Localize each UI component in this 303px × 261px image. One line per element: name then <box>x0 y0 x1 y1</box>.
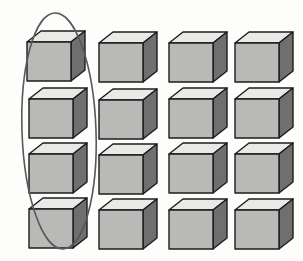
cube-r3-c1 <box>29 143 87 193</box>
cube-r2-c1 <box>29 88 87 138</box>
cube-front-face <box>169 99 213 138</box>
cube-r1-c1 <box>27 31 85 81</box>
cube-array-figure <box>0 0 303 261</box>
cube-front-face <box>29 209 73 248</box>
cube-grid <box>0 0 303 261</box>
cube-front-face <box>99 100 143 139</box>
cube-r2-c3 <box>169 88 227 138</box>
cube-r3-c3 <box>169 143 227 193</box>
cube-front-face <box>99 155 143 194</box>
cube-front-face <box>235 43 279 82</box>
cube-front-face <box>29 154 73 193</box>
cube-front-face <box>99 210 143 249</box>
cube-r4-c1 <box>29 198 87 248</box>
cube-r3-c4 <box>235 143 293 193</box>
cube-r1-c3 <box>169 32 227 82</box>
cube-front-face <box>235 210 279 249</box>
cube-r4-c4 <box>235 199 293 249</box>
cube-front-face <box>99 43 143 82</box>
cube-r3-c2 <box>99 144 157 194</box>
cube-r1-c2 <box>99 32 157 82</box>
cube-front-face <box>169 43 213 82</box>
cube-front-face <box>27 42 71 81</box>
cube-r4-c2 <box>99 199 157 249</box>
cube-r2-c4 <box>235 88 293 138</box>
cube-r4-c3 <box>169 199 227 249</box>
cube-front-face <box>235 99 279 138</box>
cube-r2-c2 <box>99 89 157 139</box>
cube-front-face <box>29 99 73 138</box>
cube-front-face <box>169 210 213 249</box>
cube-front-face <box>235 154 279 193</box>
cube-r1-c4 <box>235 32 293 82</box>
cube-front-face <box>169 154 213 193</box>
